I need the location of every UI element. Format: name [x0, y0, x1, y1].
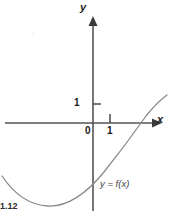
scan-speck: [32, 33, 34, 35]
function-curve: [2, 95, 167, 206]
function-graph-figure: y x 1 1 0 y = f(x) 1.12: [0, 0, 169, 211]
curve-label: y = f(x): [100, 179, 129, 189]
coordinate-plane-svg: [0, 0, 169, 211]
y-axis-label: y: [80, 2, 86, 13]
y-axis-tick-label-1: 1: [74, 98, 80, 108]
x-axis-tick-label-1: 1: [107, 126, 113, 136]
x-axis-label: x: [157, 114, 163, 125]
origin-label: 0: [85, 126, 91, 136]
y-axis-arrowhead: [89, 16, 98, 26]
page-edge-text: 1.12: [0, 202, 18, 211]
